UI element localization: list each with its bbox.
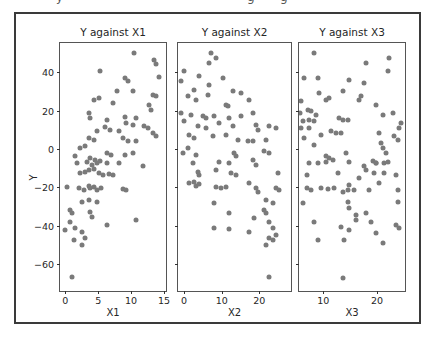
data-point — [194, 152, 199, 157]
x-tick-mark — [323, 291, 324, 294]
data-point — [238, 114, 243, 119]
data-point — [122, 115, 127, 120]
data-point — [126, 139, 131, 144]
data-point — [384, 151, 389, 156]
data-point — [234, 153, 239, 158]
data-point — [195, 124, 200, 129]
data-point — [154, 94, 159, 99]
data-point — [186, 132, 191, 137]
data-point — [396, 137, 401, 142]
data-point — [299, 99, 304, 104]
data-point — [270, 237, 275, 242]
data-point — [347, 205, 352, 210]
data-point — [154, 62, 159, 67]
plot-area — [178, 43, 291, 291]
data-point — [131, 151, 136, 156]
data-point — [89, 214, 94, 219]
data-point — [301, 119, 306, 124]
data-point — [396, 187, 401, 192]
data-point — [131, 89, 136, 94]
data-point — [331, 157, 336, 162]
data-point — [316, 237, 321, 242]
data-point — [79, 242, 84, 247]
scatter-panel-x2: Y against X2 X2 01020 — [177, 42, 292, 292]
data-point — [62, 227, 67, 232]
data-point — [104, 222, 109, 227]
data-point — [226, 161, 231, 166]
x-tick-mark — [222, 291, 223, 294]
data-point — [182, 69, 187, 74]
data-point — [98, 69, 103, 74]
x-tick-mark — [259, 291, 260, 294]
data-point — [312, 119, 317, 124]
data-point — [220, 76, 225, 81]
data-point — [266, 219, 271, 224]
data-point — [109, 152, 114, 157]
data-point — [79, 229, 84, 234]
data-point — [250, 139, 255, 144]
data-point — [212, 114, 217, 119]
data-point — [69, 274, 74, 279]
data-point — [299, 126, 304, 131]
data-point — [111, 101, 116, 106]
data-point — [206, 93, 211, 98]
data-point — [116, 161, 121, 166]
data-point — [94, 161, 99, 166]
data-point — [270, 200, 275, 205]
data-point — [99, 185, 104, 190]
x-tick-mark — [184, 291, 185, 294]
data-point — [209, 51, 214, 56]
data-point — [304, 172, 309, 177]
data-point — [189, 113, 194, 118]
data-point — [180, 151, 185, 156]
x-tick-label: 0 — [181, 295, 187, 306]
y-tick-mark — [175, 226, 178, 227]
x-tick-label: 20 — [371, 295, 383, 306]
plot-area — [299, 43, 405, 291]
data-point — [380, 240, 385, 245]
data-point — [212, 225, 217, 230]
data-point — [351, 187, 356, 192]
data-point — [342, 237, 347, 242]
data-point — [347, 227, 352, 232]
data-point — [302, 136, 307, 141]
data-point — [307, 161, 312, 166]
data-point — [214, 167, 219, 172]
data-point — [354, 217, 359, 222]
data-point — [331, 185, 336, 190]
y-tick-mark — [296, 226, 299, 227]
data-point — [197, 181, 202, 186]
data-point — [319, 132, 324, 137]
y-tick-mark — [175, 187, 178, 188]
data-point — [302, 76, 307, 81]
x-tick-mark — [131, 291, 132, 294]
y-tick-label: 40 — [42, 67, 54, 78]
data-point — [397, 225, 402, 230]
data-point — [131, 123, 136, 128]
data-point — [114, 89, 119, 94]
y-tick-label: −40 — [34, 220, 54, 231]
data-point — [226, 116, 231, 121]
data-point — [203, 116, 208, 121]
data-point — [108, 128, 113, 133]
x-tick-label: 10 — [317, 295, 329, 306]
data-point — [212, 200, 217, 205]
data-point — [341, 275, 346, 280]
data-point — [230, 89, 235, 94]
data-point — [73, 225, 78, 230]
caption-fragment: g — [280, 0, 288, 4]
data-point — [364, 210, 369, 215]
data-point — [250, 111, 255, 116]
data-point — [347, 78, 352, 83]
data-point — [134, 217, 139, 222]
data-point — [312, 219, 317, 224]
data-point — [69, 210, 74, 215]
x-axis-label: X2 — [228, 307, 241, 318]
y-tick-mark — [296, 72, 299, 73]
data-point — [94, 199, 99, 204]
data-point — [140, 163, 145, 168]
data-point — [309, 187, 314, 192]
y-tick-mark — [296, 149, 299, 150]
page: ygg Y Y against X1 X1 05101540200−20−40−… — [0, 0, 428, 339]
data-point — [324, 159, 329, 164]
